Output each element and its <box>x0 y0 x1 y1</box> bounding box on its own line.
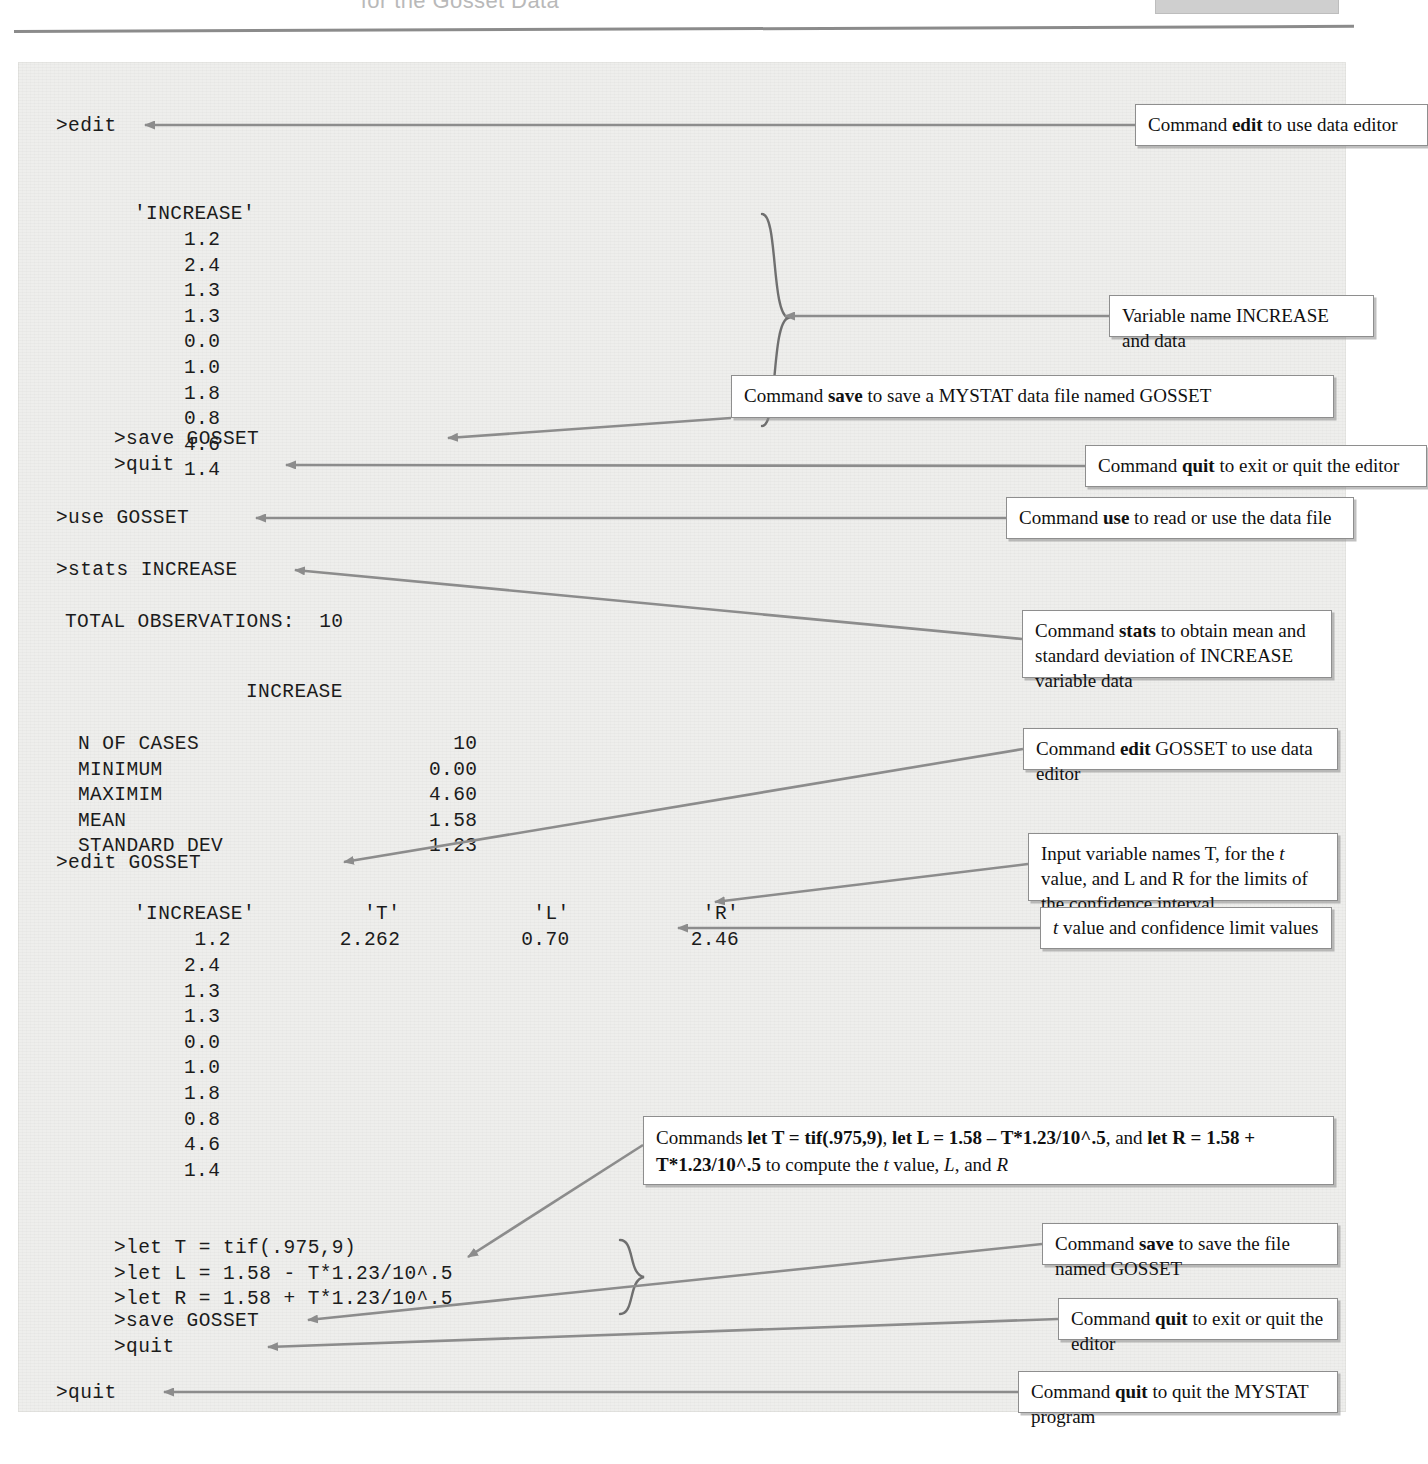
callout-use-data-file: Command use to read or use the data file <box>1006 497 1354 539</box>
callout-command: save <box>1139 1233 1174 1254</box>
terminal-save-gosset-1: >save GOSSET <box>114 427 259 453</box>
header-decoration-chip <box>1155 0 1339 14</box>
callout-command: quit <box>1182 455 1215 476</box>
callout-input-variable-names: Input variable names T, for the t value,… <box>1028 833 1338 901</box>
terminal-use-gosset: >use GOSSET <box>56 506 189 532</box>
terminal-stats-increase: >stats INCREASE <box>56 558 238 584</box>
terminal-let-commands: >let T = tif(.975,9) >let L = 1.58 - T*1… <box>114 1236 453 1313</box>
callout-command: edit <box>1120 738 1151 759</box>
callout-italic-t: t <box>1279 843 1284 864</box>
callout-command: save <box>828 385 863 406</box>
terminal-quit-1: >quit <box>114 453 175 479</box>
callout-italic-r: R <box>996 1154 1008 1175</box>
callout-text-seg1: Input variable names T, for the <box>1041 843 1279 864</box>
callout-text-post: to exit or quit the editor <box>1215 455 1400 476</box>
callout-variable-data: Variable name INCREASE and data <box>1109 295 1374 337</box>
callout-text-pre: Command <box>1055 1233 1139 1254</box>
callout-quit-program: Command quit to quit the MYSTAT program <box>1018 1371 1338 1413</box>
terminal-block2-increase-rest: 2.4 1.3 1.3 0.0 1.0 1.8 0.8 4.6 1.4 <box>184 954 220 1184</box>
callout-text-seg3: , and <box>1106 1127 1148 1148</box>
callout-command: quit <box>1155 1308 1188 1329</box>
callout-text-seg1: Commands <box>656 1127 747 1148</box>
callout-text-pre: Command <box>1031 1381 1115 1402</box>
callout-text-post: to save a MYSTAT data file named GOSSET <box>863 385 1212 406</box>
callout-command: edit <box>1232 114 1263 135</box>
terminal-quit-3: >quit <box>56 1381 117 1407</box>
terminal-line-edit: >edit <box>56 114 117 140</box>
callout-text-pre: Command <box>1019 507 1103 528</box>
callout-text-pre: Command <box>1035 620 1119 641</box>
callout-text-seg4: to compute the <box>761 1154 883 1175</box>
callout-text-post: to use data editor <box>1263 114 1398 135</box>
terminal-block1-header: 'INCREASE' <box>134 202 255 228</box>
callout-text: Variable name INCREASE and data <box>1122 305 1329 351</box>
callout-text-pre: Command <box>744 385 828 406</box>
terminal-stats-table: N OF CASES 10 MINIMUM 0.00 MAXIMIM 4.60 … <box>78 732 477 860</box>
terminal-block2-headers: 'INCREASE' 'T' 'L' 'R' <box>134 902 739 928</box>
callout-let-commands: Commands let T = tif(.975,9), let L = 1.… <box>643 1116 1334 1185</box>
terminal-edit-gosset: >edit GOSSET <box>56 851 201 877</box>
callout-save-mystat-file: Command save to save a MYSTAT data file … <box>731 375 1334 418</box>
terminal-total-observations: TOTAL OBSERVATIONS: 10 <box>65 610 343 636</box>
callout-text-pre: Command <box>1098 455 1182 476</box>
callout-text-pre: Command <box>1036 738 1120 759</box>
callout-italic-l: L <box>944 1154 955 1175</box>
callout-t-and-limits: t value and confidence limit values <box>1040 907 1332 949</box>
mystat-session-figure: >edit 'INCREASE' 1.2 2.4 1.3 1.3 0.0 1.0… <box>18 62 1346 1412</box>
callout-text-pre: Command <box>1071 1308 1155 1329</box>
callout-command: use <box>1103 507 1129 528</box>
callout-text-seg2: , <box>883 1127 893 1148</box>
callout-text-seg6: , and <box>955 1154 997 1175</box>
callout-save-named-gosset: Command save to save the file named GOSS… <box>1042 1223 1338 1265</box>
callout-text-seg1: value and confidence limit values <box>1058 917 1318 938</box>
callout-text-post: to read or use the data file <box>1129 507 1331 528</box>
terminal-save-gosset-2: >save GOSSET <box>114 1309 259 1335</box>
callout-edit-editor: Command edit to use data editor <box>1135 104 1428 146</box>
callout-command: quit <box>1115 1381 1148 1402</box>
header-rule <box>14 25 1354 33</box>
callout-edit-gosset-editor: Command edit GOSSET to use data editor <box>1023 728 1338 770</box>
page-header-caption: for the Gosset Data <box>250 0 670 14</box>
terminal-block2-first-row: 1.2 2.262 0.70 2.46 <box>134 928 739 954</box>
callout-formula-let-l: let L = 1.58 – T*1.23/10^.5 <box>892 1127 1106 1148</box>
callout-command: stats <box>1119 620 1156 641</box>
terminal-quit-2: >quit <box>114 1335 175 1361</box>
callout-formula-let-t: let T = tif(.975,9) <box>747 1127 882 1148</box>
callout-text-seg5: value, <box>889 1154 944 1175</box>
brace-let-commands <box>616 1238 652 1316</box>
callout-stats-mean-sd: Command stats to obtain mean and standar… <box>1022 610 1332 678</box>
terminal-stats-column-header: INCREASE <box>246 680 343 706</box>
callout-quit-editor-1: Command quit to exit or quit the editor <box>1085 445 1427 487</box>
callout-quit-editor-2: Command quit to exit or quit the editor <box>1058 1298 1338 1340</box>
callout-text-pre: Command <box>1148 114 1232 135</box>
